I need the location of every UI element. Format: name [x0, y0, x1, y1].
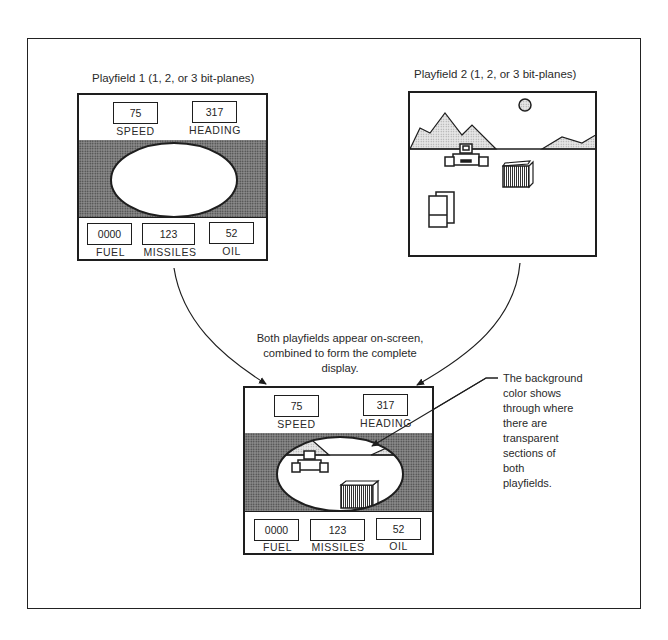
- callout-overlay: [0, 0, 668, 640]
